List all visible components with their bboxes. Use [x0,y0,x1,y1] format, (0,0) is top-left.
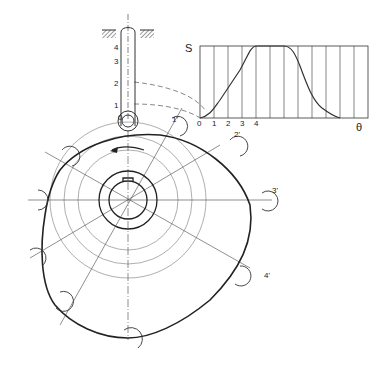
follower-label: 1 [114,101,119,110]
follower-label: 2 [114,79,119,88]
chart-ylabel: S [185,42,192,54]
point-label-1: 1' [172,115,178,124]
x-tick: 0 [197,119,202,128]
follower-label: 3 [114,57,119,66]
point-label-4: 4' [264,271,270,280]
chart-xlabel: θ [356,121,362,133]
follower-label: 0 [118,113,123,122]
point-label-2: 2' [234,130,240,139]
follower-label: 4 [114,43,119,52]
x-tick: 1 [212,119,217,128]
x-tick: 2 [226,119,231,128]
x-tick: 4 [254,119,259,128]
cam-profile [42,135,251,338]
point-label-3: 3' [272,186,278,195]
x-tick: 3 [240,119,245,128]
displacement-chart [200,46,368,118]
follower [102,14,154,131]
radial-lines [28,108,272,340]
cam-diagram: S θ 0 1 2 3 4 4 3 2 1 0 [0,0,385,377]
